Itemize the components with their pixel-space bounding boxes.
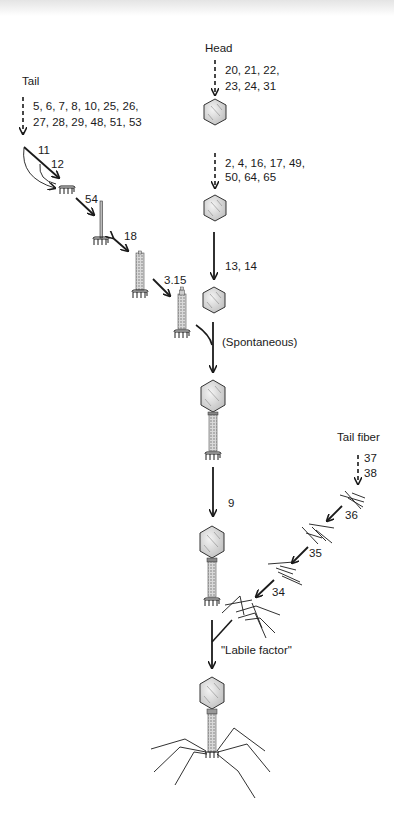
sheathed-tail-icon [132,251,148,298]
tail-genes-line2: 27, 28, 29, 48, 51, 53 [33,116,142,129]
spontaneous-join [196,322,213,372]
tail-tube-icon [93,201,109,245]
tail-fiber-branch [222,455,365,638]
head-intermediate-icon [204,195,226,221]
complete-fibers-icon [222,596,280,638]
fiber-intermediate-icon [302,524,334,544]
phage-fiberless-icon [200,526,224,606]
fiber-gene-37-label: 37 [364,452,377,465]
tail-genes-line1: 5, 6, 7, 8, 10, 25, 26, [33,100,139,113]
half-fiber-icon [340,491,365,509]
head-branch-label: Head [205,42,233,55]
fiber-step-34-label: 34 [272,586,285,599]
fiber-arrow-36 [327,506,342,521]
fiber-step-36-label: 36 [345,509,358,522]
head-second-genes-line1: 2, 4, 16, 17, 49, [225,157,305,170]
baseplate-icon [59,186,75,194]
head-second-genes-line2: 50, 64, 65 [225,171,276,184]
fiber-step-35-label: 35 [309,547,322,560]
head-genes-line1: 20, 21, 22, [225,64,279,77]
tail-step-11-label: 11 [38,144,50,157]
tail-branch-label: Tail [22,75,39,88]
fiber-gene-38-label: 38 [364,467,377,480]
tail-step-18-label: 18 [124,230,137,243]
mature-head-icon [203,287,225,313]
labile-factor-label: "Labile factor" [221,644,292,657]
tail-fiber-branch-label: Tail fiber [337,431,380,444]
step-9-label: 9 [228,497,234,510]
head-step-13-14-label: 13, 14 [225,260,257,273]
fiber-arrow-35 [292,547,308,563]
tail-step-3-15-label: 3.15 [164,274,186,287]
tail-branch [23,97,190,338]
phage-no-neck-icon [201,380,225,460]
spontaneous-label: (Spontaneous) [222,336,297,349]
head-branch [203,60,226,313]
head-genes-line2: 23, 24, 31 [225,80,276,93]
tail-step-12-label: 12 [51,158,64,171]
complete-phage-icon [151,677,270,798]
prohead-icon [204,99,226,125]
completed-tail-icon [174,287,190,338]
tail-step-54-label: 54 [85,193,98,206]
